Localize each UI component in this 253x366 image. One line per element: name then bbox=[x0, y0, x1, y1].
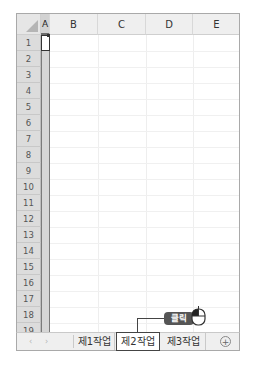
add-sheet-button[interactable]: + bbox=[220, 336, 231, 347]
grid-line bbox=[50, 227, 240, 228]
sheet-tab-bar: ‹ › 제1작업 제2작업 제3작업 + bbox=[16, 332, 240, 351]
tab-separator bbox=[73, 335, 74, 348]
grid-line bbox=[50, 291, 240, 292]
column-header-e[interactable]: E bbox=[193, 14, 240, 35]
sheet-tab-3[interactable]: 제3작업 bbox=[162, 333, 206, 350]
grid-line bbox=[50, 99, 240, 100]
grid-line bbox=[50, 115, 240, 116]
grid-line bbox=[50, 275, 240, 276]
row-header[interactable]: 7 bbox=[17, 131, 41, 147]
row-header[interactable]: 16 bbox=[17, 275, 41, 291]
row-header[interactable]: 8 bbox=[17, 147, 41, 163]
select-all-corner[interactable] bbox=[17, 14, 41, 35]
row-header[interactable]: 6 bbox=[17, 115, 41, 131]
row-header[interactable]: 10 bbox=[17, 179, 41, 195]
grid-line bbox=[50, 243, 240, 244]
grid-line bbox=[50, 163, 240, 164]
column-header-b[interactable]: B bbox=[50, 14, 98, 35]
grid-line bbox=[50, 307, 240, 308]
row-header[interactable]: 13 bbox=[17, 227, 41, 243]
select-all-triangle-icon bbox=[26, 20, 38, 32]
row-header[interactable]: 17 bbox=[17, 291, 41, 307]
click-callout-label: 클릭 bbox=[164, 312, 194, 325]
scroll-tabs-left-button[interactable]: ‹ bbox=[29, 333, 32, 350]
row-header[interactable]: 2 bbox=[17, 51, 41, 67]
mouse-left-click-icon bbox=[191, 306, 206, 326]
column-header-d[interactable]: D bbox=[146, 14, 193, 35]
row-header[interactable]: 11 bbox=[17, 195, 41, 211]
row-header[interactable]: 3 bbox=[17, 67, 41, 83]
grid-line bbox=[50, 259, 240, 260]
grid-line bbox=[50, 67, 240, 68]
row-header[interactable]: 4 bbox=[17, 83, 41, 99]
selected-column-a[interactable] bbox=[41, 35, 50, 351]
fill-handle[interactable] bbox=[47, 34, 50, 37]
row-header[interactable]: 9 bbox=[17, 163, 41, 179]
spreadsheet-grid: A B C D E 1 2 3 4 5 6 7 8 9 10 11 12 13 … bbox=[16, 13, 240, 351]
row-header[interactable]: 1 bbox=[17, 35, 41, 51]
row-header[interactable]: 14 bbox=[17, 243, 41, 259]
grid-line bbox=[50, 211, 240, 212]
column-header-a[interactable]: A bbox=[41, 14, 50, 35]
sheet-tab-1[interactable]: 제1작업 bbox=[75, 333, 115, 350]
row-header[interactable]: 15 bbox=[17, 259, 41, 275]
row-header[interactable]: 12 bbox=[17, 211, 41, 227]
active-cell-a1[interactable] bbox=[41, 35, 50, 51]
callout-connector-line bbox=[137, 318, 165, 333]
column-header-c[interactable]: C bbox=[98, 14, 146, 35]
grid-line bbox=[50, 147, 240, 148]
grid-line bbox=[50, 179, 240, 180]
row-header[interactable]: 18 bbox=[17, 307, 41, 323]
grid-line bbox=[50, 83, 240, 84]
grid-line bbox=[50, 195, 240, 196]
scroll-tabs-right-button[interactable]: › bbox=[45, 333, 48, 350]
sheet-tab-2[interactable]: 제2작업 bbox=[116, 332, 160, 351]
grid-line bbox=[50, 131, 240, 132]
row-header[interactable]: 5 bbox=[17, 99, 41, 115]
grid-line bbox=[50, 51, 240, 52]
